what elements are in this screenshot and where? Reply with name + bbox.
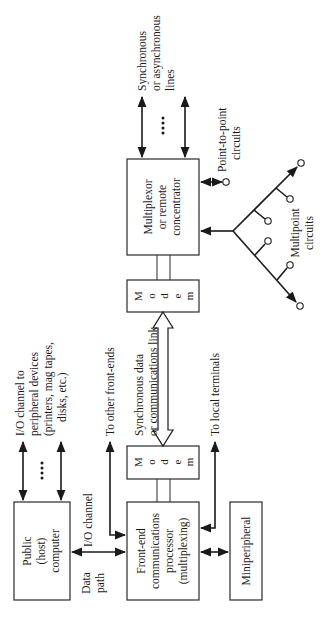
data-path-label: Data path (80, 572, 107, 594)
multipoint-terminal (297, 303, 303, 309)
point-to-point-label: Point-to-point circuits (216, 107, 242, 172)
svg-text:Synchronous: Synchronous (136, 30, 149, 91)
svg-text:(multiplexing): (multiplexing) (177, 518, 190, 585)
svg-text:I/O channel to: I/O channel to (14, 370, 26, 436)
local-terminals-label: To local terminals (209, 353, 221, 436)
other-frontends-arrow (110, 442, 125, 535)
svg-text:d: d (158, 459, 170, 465)
svg-text:or remote: or remote (156, 185, 168, 229)
multipoint-stubs (254, 188, 293, 280)
svg-text:m: m (183, 291, 195, 300)
svg-text:Public: Public (21, 536, 33, 565)
svg-text:(host): (host) (35, 537, 48, 564)
svg-text:concentrator: concentrator (170, 178, 182, 236)
svg-text:(printers, mag tapes,: (printers, mag tapes, (42, 342, 55, 436)
svg-text:I/O channel: I/O channel (82, 493, 94, 547)
svg-text:or communications link: or communications link (147, 327, 159, 436)
network-diagram: Public (host) computer Front-end communi… (0, 0, 329, 624)
point-to-point-terminal (223, 179, 229, 185)
svg-text:Multiplexor: Multiplexor (142, 179, 155, 234)
svg-text:M: M (132, 291, 144, 301)
local-terminals-arrow (201, 442, 215, 528)
multipoint-terminal (298, 160, 304, 166)
sync-lines-label: Synchronous or asynchronous lines (136, 15, 176, 91)
svg-text:or asynchronous: or asynchronous (150, 15, 163, 91)
svg-text:lines: lines (164, 69, 176, 91)
svg-text:d: d (158, 293, 170, 299)
svg-text:e: e (171, 293, 183, 298)
io-peripheral-label: I/O channel to peripheral devices (print… (14, 342, 69, 436)
svg-text:o: o (145, 293, 157, 299)
svg-text:circuits: circuits (303, 216, 315, 250)
multiplexor-label: Multiplexor or remote concentrator (142, 178, 182, 236)
mux-lines-ellipsis (162, 117, 165, 135)
miniperipheral-label: Miniperipheral (240, 517, 253, 586)
svg-text:computer: computer (49, 529, 62, 573)
svg-text:Miniperipheral: Miniperipheral (240, 517, 253, 586)
svg-text:o: o (145, 459, 157, 465)
svg-text:Synchronous data: Synchronous data (133, 354, 146, 436)
svg-text:Multipoint: Multipoint (289, 208, 302, 258)
other-frontends-label: To other front-ends (104, 347, 116, 436)
multipoint-label: Multipoint circuits (289, 208, 315, 258)
svg-text:Data: Data (80, 572, 92, 594)
comm-link-label: Synchronous data or communications link (133, 327, 159, 436)
svg-text:M: M (132, 457, 144, 467)
svg-text:path: path (94, 573, 107, 593)
svg-text:processor: processor (163, 529, 176, 573)
svg-text:circuits: circuits (230, 126, 242, 160)
svg-text:Point-to-point: Point-to-point (216, 107, 229, 172)
svg-text:To local terminals: To local terminals (209, 353, 221, 436)
svg-text:To other front-ends: To other front-ends (104, 347, 116, 436)
svg-text:m: m (183, 457, 195, 466)
svg-text:disks, etc.): disks, etc.) (56, 372, 69, 422)
host-io-ellipsis (41, 462, 44, 480)
svg-text:communications: communications (149, 512, 161, 589)
svg-text:e: e (171, 459, 183, 464)
svg-text:peripheral devices: peripheral devices (28, 352, 41, 436)
svg-text:Front-end: Front-end (135, 528, 147, 574)
io-channel-label: I/O channel (82, 493, 94, 547)
